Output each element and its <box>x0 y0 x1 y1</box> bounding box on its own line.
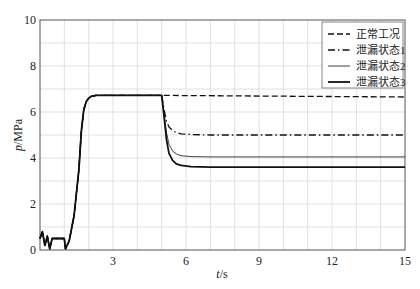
x-tick-label: 15 <box>399 254 411 268</box>
legend-label: 泄漏状态3 <box>356 75 406 88</box>
y-tick-label: 2 <box>30 197 36 211</box>
series-line-3 <box>40 95 405 248</box>
legend-label: 泄漏状态2 <box>356 59 406 72</box>
legend-label: 泄漏状态1 <box>356 43 406 56</box>
x-tick-label: 9 <box>256 254 262 268</box>
series-line-2 <box>40 95 405 248</box>
y-tick-label: 0 <box>30 243 36 257</box>
x-axis-label: t/s <box>216 267 228 281</box>
legend-label: 正常工况 <box>356 28 400 40</box>
x-tick-label: 12 <box>326 254 338 268</box>
y-axis-label: p/MPa <box>11 118 25 152</box>
y-tick-label: 6 <box>30 105 36 119</box>
series-group <box>40 95 405 248</box>
x-tick-labels: 3691215 <box>110 254 411 268</box>
x-tick-label: 6 <box>183 254 189 268</box>
y-tick-label: 8 <box>30 59 36 73</box>
y-tick-labels: 0246810 <box>24 13 36 257</box>
series-line-4 <box>40 95 405 248</box>
series-line-1 <box>40 95 405 248</box>
x-tick-label: 3 <box>110 254 116 268</box>
y-tick-label: 10 <box>24 13 36 27</box>
legend: 正常工况泄漏状态1泄漏状态2泄漏状态3 <box>322 22 406 88</box>
pressure-chart: 3691215 0246810 t/s p/MPa 正常工况泄漏状态1泄漏状态2… <box>0 0 420 289</box>
y-tick-label: 4 <box>30 151 36 165</box>
